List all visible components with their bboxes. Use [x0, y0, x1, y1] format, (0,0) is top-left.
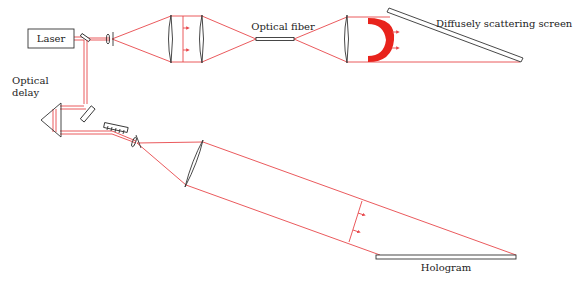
- lens-2: [200, 15, 204, 63]
- lens-1: [169, 15, 173, 63]
- mirror-1: [80, 106, 95, 122]
- screen-label: Diffusely scattering screen: [436, 18, 573, 29]
- diffuse-screen: Diffusely scattering screen: [387, 8, 573, 62]
- optical-fiber: Optical fiber: [251, 21, 315, 41]
- reference-beam: [53, 40, 516, 255]
- lens-3: [345, 15, 349, 63]
- hologram-label: Hologram: [421, 262, 472, 273]
- hologram: Hologram: [376, 255, 516, 273]
- spatial-filter-2: [131, 135, 141, 148]
- optical-setup-diagram: Laser Optical fiber Diffusely scattering…: [0, 0, 575, 284]
- optical-delay: Optical delay: [12, 75, 61, 137]
- optical-fiber-label: Optical fiber: [251, 21, 315, 32]
- laser-label: Laser: [37, 33, 66, 44]
- laser: Laser: [28, 29, 74, 48]
- optical-delay-label-1: Optical: [12, 75, 49, 86]
- collimating-mirror: [185, 140, 203, 187]
- optical-delay-label-2: delay: [12, 87, 39, 98]
- object-wavefront: [368, 18, 398, 62]
